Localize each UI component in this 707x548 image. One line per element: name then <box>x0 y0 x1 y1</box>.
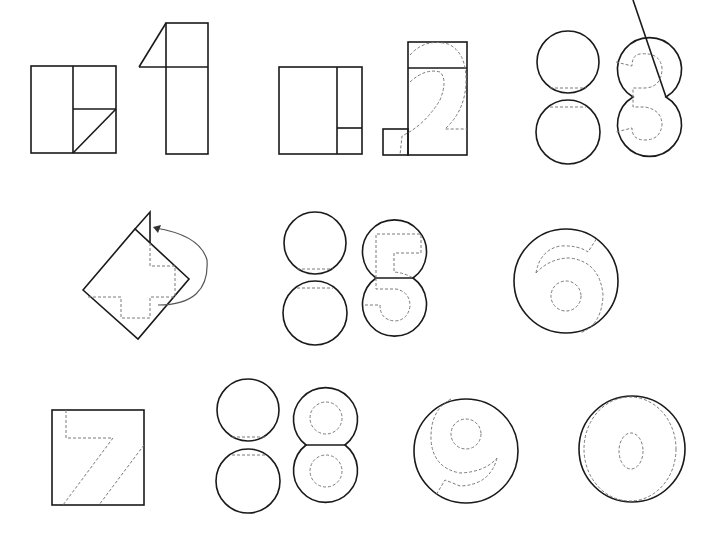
digit-8-assembled <box>293 388 357 503</box>
digit-3-source-circles <box>536 31 600 164</box>
digit-1-assembled <box>139 23 208 154</box>
digit-2-assembled <box>383 42 467 155</box>
digit-7-square <box>52 410 144 505</box>
digit-9-circle <box>414 399 518 503</box>
digit-3-assembled <box>616 0 682 156</box>
digit-cutting-diagram <box>0 0 707 548</box>
digit-8-source-circles <box>216 379 280 513</box>
digit-2-source-square <box>279 67 362 154</box>
digit-4-folded-square <box>83 212 207 339</box>
digit-6-circle <box>514 229 618 333</box>
digit-5-assembled <box>363 220 427 336</box>
digit-5-source-circles <box>283 212 347 345</box>
digit-0-circle <box>579 396 685 502</box>
digit-1-source-square <box>31 66 116 153</box>
